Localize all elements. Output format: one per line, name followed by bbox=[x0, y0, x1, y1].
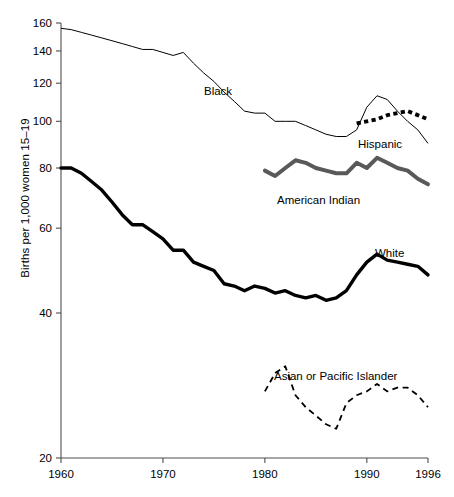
y-axis-title: Births per 1,000 women 15–19 bbox=[19, 83, 35, 313]
y-tick-label: 80 bbox=[39, 162, 52, 174]
x-tick-label: 1990 bbox=[354, 468, 380, 480]
series-label-black: Black bbox=[204, 85, 232, 97]
y-tick-label: 120 bbox=[33, 77, 52, 89]
x-tick-label: 1960 bbox=[48, 468, 74, 480]
x-tick-label: 1996 bbox=[415, 468, 441, 480]
y-tick-label: 160 bbox=[33, 17, 52, 29]
y-tick-label: 100 bbox=[33, 115, 52, 127]
teen-birth-rate-chart: 20406080100120140160 1960197019801990199… bbox=[0, 0, 454, 497]
series-line-american-indian bbox=[265, 158, 428, 185]
y-tick-label: 140 bbox=[33, 45, 52, 57]
y-tick-label: 20 bbox=[39, 452, 52, 464]
series-label-hispanic: Hispanic bbox=[358, 138, 402, 150]
y-axis: 20406080100120140160 bbox=[33, 17, 61, 464]
series-label-asian-or-pacific-islander: Asian or Pacific Islander bbox=[274, 370, 397, 382]
y-tick-label: 60 bbox=[39, 222, 52, 234]
series-line-white bbox=[61, 168, 428, 300]
series-lines bbox=[61, 28, 428, 428]
series-label-american-indian: American Indian bbox=[277, 194, 360, 206]
x-tick-label: 1980 bbox=[252, 468, 278, 480]
x-tick-label: 1970 bbox=[150, 468, 176, 480]
series-label-white: White bbox=[375, 247, 404, 259]
series-line-hispanic bbox=[357, 111, 428, 123]
series-line-black bbox=[61, 28, 428, 143]
y-tick-label: 40 bbox=[39, 307, 52, 319]
x-axis: 19601970198019901996 bbox=[48, 458, 441, 480]
